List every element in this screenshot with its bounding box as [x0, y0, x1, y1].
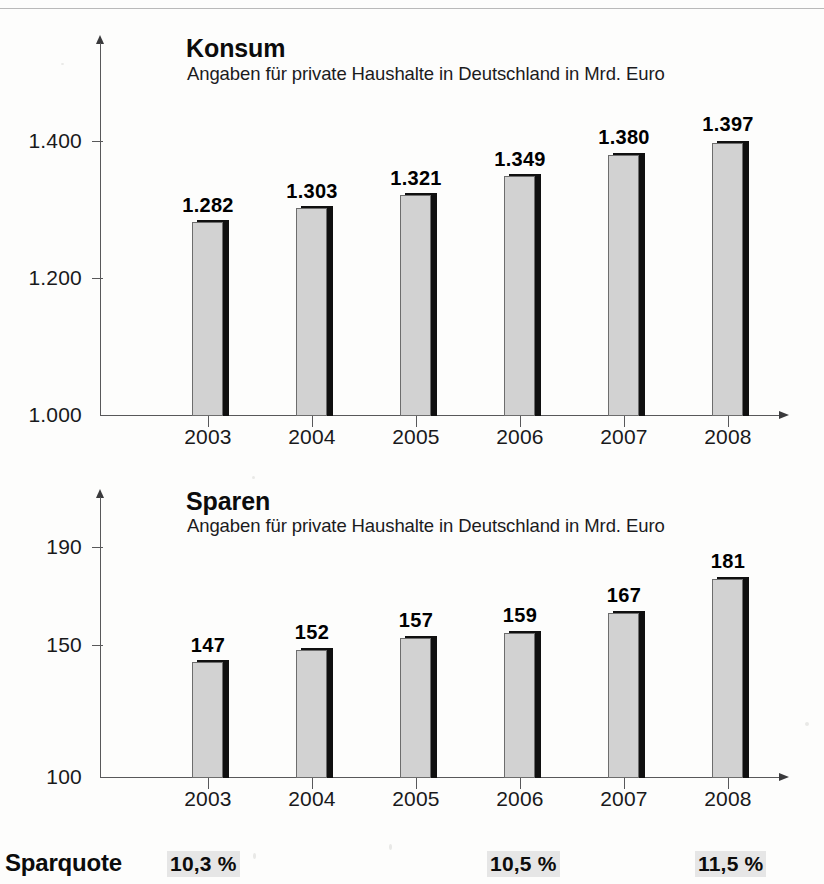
x-axis-label: 2008	[678, 787, 778, 811]
bar-shadow	[430, 636, 437, 778]
bar-value-label: 159	[470, 604, 570, 627]
chart-panel-sparen: Sparen Angaben für private Haushalte in …	[0, 0, 824, 884]
bar	[608, 613, 639, 778]
bar	[400, 638, 431, 778]
bar-shadow	[326, 648, 333, 778]
chart-subtitle-sparen: Angaben für private Haushalte in Deutsch…	[187, 515, 665, 537]
sparquote-row-label: Sparquote	[5, 849, 122, 877]
x-axis-label: 2005	[366, 787, 466, 811]
y-tick-mark	[92, 645, 103, 646]
bar-shadow	[742, 577, 749, 778]
bar-value-label: 181	[678, 550, 778, 573]
bar-shadow	[534, 631, 541, 778]
y-axis-label: 100	[16, 765, 82, 789]
bar	[504, 633, 535, 778]
sparquote-value-2008: 11,5 %	[695, 851, 766, 877]
y-axis-line	[100, 497, 101, 778]
x-axis-label: 2007	[574, 787, 674, 811]
y-tick-mark	[92, 547, 103, 548]
x-axis-label: 2006	[470, 787, 570, 811]
x-axis-label: 2004	[262, 787, 362, 811]
bar-value-label: 157	[366, 609, 466, 632]
sparquote-value-2006: 10,5 %	[487, 851, 560, 877]
y-axis-label: 150	[16, 633, 82, 657]
chart-title-sparen: Sparen	[186, 487, 270, 516]
bar-value-label: 147	[158, 634, 258, 657]
bar	[712, 579, 743, 778]
bar	[192, 662, 223, 778]
bar-shadow	[222, 660, 229, 778]
y-axis-label: 190	[16, 535, 82, 559]
bar	[296, 650, 327, 778]
figure-canvas: Konsum Angaben für private Haushalte in …	[0, 0, 824, 884]
bar-shadow	[638, 611, 645, 778]
bar-value-label: 167	[574, 584, 674, 607]
sparquote-value-2003: 10,3 %	[167, 851, 240, 877]
x-axis-label: 2003	[158, 787, 258, 811]
x-axis-arrow-icon	[779, 773, 789, 781]
bar-value-label: 152	[262, 621, 362, 644]
